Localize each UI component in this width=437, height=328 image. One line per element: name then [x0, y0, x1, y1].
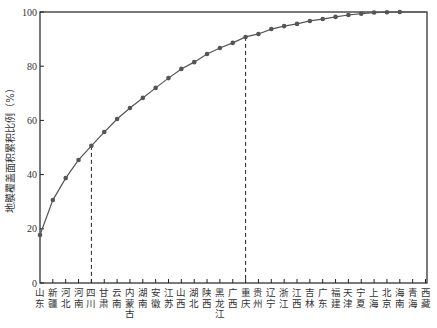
data-point — [320, 17, 325, 22]
x-tick-label: 山东 — [35, 287, 45, 309]
x-tick-label: 湖南 — [138, 287, 148, 309]
x-tick-label: 上海 — [369, 287, 379, 309]
data-point — [243, 35, 248, 40]
data-point — [230, 41, 235, 46]
x-tick-label: 贵州 — [253, 287, 263, 309]
x-tick-label: 广西 — [228, 287, 238, 309]
data-point — [141, 96, 146, 101]
x-tick-label: 浙江 — [279, 287, 289, 309]
data-point — [256, 32, 261, 37]
data-point — [102, 130, 107, 135]
plot-border — [40, 12, 427, 283]
data-point — [269, 27, 274, 32]
x-tick-label: 新疆 — [48, 287, 58, 309]
x-tick-label: 内蒙古 — [125, 287, 135, 319]
data-point — [359, 11, 364, 16]
x-tick-label: 江西 — [292, 287, 302, 309]
data-point — [218, 46, 223, 51]
dashed-reference-lines — [91, 37, 245, 283]
x-tick-label: 吉林 — [305, 287, 315, 309]
x-tick-label: 海南 — [395, 287, 405, 309]
data-point — [63, 176, 68, 181]
data-point — [115, 117, 120, 122]
x-tick-label: 湖北 — [189, 287, 199, 309]
y-axis: 020406080100 — [22, 7, 44, 289]
data-point — [372, 10, 377, 15]
x-tick-label: 河南 — [74, 287, 84, 309]
x-tick-label: 天津 — [343, 287, 353, 309]
x-tick-label: 辽宁 — [266, 287, 276, 309]
x-tick-label: 重庆 — [241, 287, 251, 309]
x-tick-label: 黑龙江 — [215, 287, 225, 319]
data-point — [128, 106, 133, 111]
data-point — [295, 22, 300, 27]
y-axis-label: 地膜覆盖面积累积比例（%） — [4, 83, 16, 213]
data-series — [38, 10, 426, 238]
data-point — [153, 86, 158, 91]
x-tick-label: 甘肃 — [99, 287, 109, 309]
y-tick-label: 20 — [27, 223, 37, 234]
y-tick-label: 100 — [22, 7, 37, 18]
x-tick-label: 青海 — [408, 287, 418, 309]
series-line — [40, 12, 426, 235]
data-point — [385, 10, 390, 15]
data-point — [51, 198, 56, 203]
data-point — [192, 60, 197, 65]
x-tick-label: 西藏 — [421, 287, 431, 309]
data-point — [179, 67, 184, 72]
x-tick-label: 山西 — [176, 287, 186, 309]
x-tick-label: 北京 — [382, 287, 392, 309]
data-point — [166, 76, 171, 81]
y-tick-label: 60 — [27, 115, 37, 126]
data-point — [205, 52, 210, 57]
data-point — [38, 233, 43, 238]
data-point — [346, 13, 351, 18]
plot-frame — [40, 12, 427, 283]
x-tick-label: 陕西 — [202, 287, 212, 309]
x-tick-label: 广东 — [318, 287, 328, 309]
data-point — [308, 19, 313, 24]
x-tick-label: 福建 — [331, 287, 341, 309]
y-tick-label: 40 — [27, 169, 37, 180]
cumulative-area-chart: 020406080100 山东新疆河北河南四川甘肃云南内蒙古湖南安徽江苏山西湖北… — [0, 0, 437, 328]
y-tick-label: 80 — [27, 61, 37, 72]
data-point — [282, 24, 287, 29]
x-tick-label: 河北 — [61, 287, 71, 309]
x-tick-label: 宁夏 — [356, 287, 366, 309]
data-point — [398, 10, 403, 15]
x-tick-label: 安徽 — [151, 287, 161, 309]
x-axis: 山东新疆河北河南四川甘肃云南内蒙古湖南安徽江苏山西湖北陕西黑龙江广西重庆贵州辽宁… — [35, 279, 431, 319]
x-tick-label: 江苏 — [164, 287, 174, 309]
x-tick-label: 云南 — [112, 287, 122, 309]
data-point — [89, 144, 94, 149]
data-point — [333, 15, 338, 20]
data-point — [76, 158, 81, 163]
x-tick-label: 四川 — [86, 287, 96, 309]
